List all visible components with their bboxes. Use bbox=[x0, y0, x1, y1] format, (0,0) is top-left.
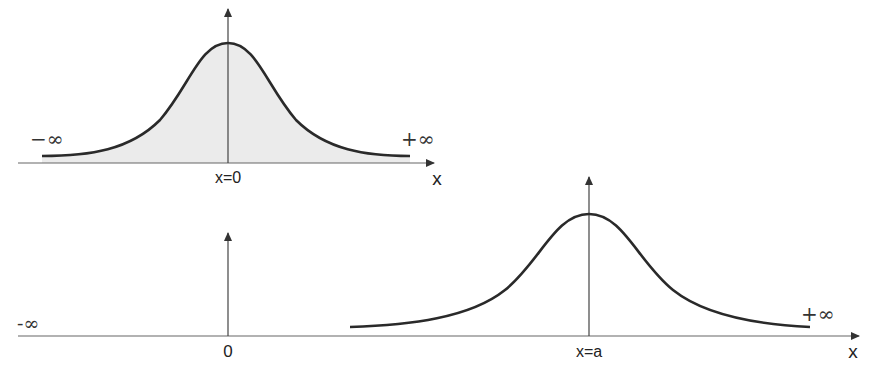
top-x-axis-label: x bbox=[432, 168, 442, 189]
top-panel: −∞ +∞ x=0 x bbox=[18, 9, 442, 189]
bottom-bell-curve bbox=[350, 214, 810, 327]
bottom-pos-infinity-label: +∞ bbox=[801, 302, 834, 326]
top-shaded-area bbox=[42, 43, 410, 163]
bottom-origin-label: 0 bbox=[223, 342, 232, 361]
bottom-x-axis-label: x bbox=[848, 341, 858, 362]
bottom-neg-infinity-label: -∞ bbox=[17, 312, 39, 334]
top-pos-infinity-label: +∞ bbox=[401, 127, 434, 151]
top-center-label: x=0 bbox=[215, 169, 241, 186]
top-neg-infinity-label: −∞ bbox=[30, 127, 63, 151]
diagram-canvas: −∞ +∞ x=0 x -∞ +∞ 0 x=a x bbox=[0, 0, 871, 374]
bottom-panel: -∞ +∞ 0 x=a x bbox=[17, 177, 859, 362]
bottom-center-label: x=a bbox=[576, 343, 602, 360]
